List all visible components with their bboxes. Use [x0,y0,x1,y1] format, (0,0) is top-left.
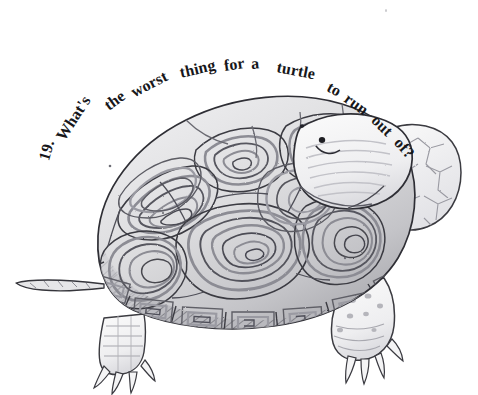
head-facing-right [294,114,413,209]
turtle-drawing [0,0,478,395]
nostril [300,124,304,128]
scan-speck [385,9,387,12]
tail [16,280,104,291]
illustration-canvas: 19.What'stheworstthingforaturtletorunout… [0,0,478,395]
front-leg-with-claws [94,314,155,394]
